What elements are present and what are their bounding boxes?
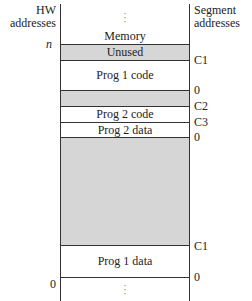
segment-prog1-code: Prog 1 code <box>61 61 189 90</box>
segment-prog1-data: Prog 1 data <box>61 246 189 277</box>
memory-label: Memory <box>61 30 189 43</box>
memory-right-edge <box>189 4 190 301</box>
segment-gap-2 <box>61 138 189 245</box>
hw-address-0: 0 <box>50 278 56 291</box>
segment-address-c3: C3 <box>194 116 208 129</box>
boundary-line <box>60 60 190 61</box>
segment-address-0: 0 <box>194 271 200 284</box>
segment-unused: Unused <box>61 45 189 60</box>
segment-address-0: 0 <box>194 131 200 144</box>
boundary-line <box>60 122 190 123</box>
top-ellipsis: ··· <box>120 12 130 24</box>
boundary-line <box>60 90 190 91</box>
segment-address-c1-bottom: C1 <box>194 240 208 253</box>
boundary-line <box>60 106 190 107</box>
hw-address-n: n <box>46 38 52 51</box>
segment-address-0: 0 <box>194 84 200 97</box>
boundary-line <box>60 245 190 246</box>
segment-address-c1-top: C1 <box>194 54 208 67</box>
segment-prog2-data: Prog 2 data <box>61 123 189 137</box>
segment-prog2-code: Prog 2 code <box>61 107 189 122</box>
boundary-line <box>60 277 190 278</box>
segment-addresses-title-line2: addresses <box>194 17 240 30</box>
hw-addresses-title-line2: addresses <box>0 17 56 30</box>
bottom-ellipsis: ··· <box>120 284 130 296</box>
segment-gap-1 <box>61 91 189 106</box>
segment-address-c2: C2 <box>194 100 208 113</box>
boundary-line <box>60 44 190 45</box>
boundary-line <box>60 137 190 138</box>
